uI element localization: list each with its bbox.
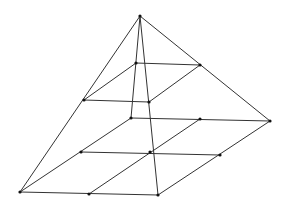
vertex-base-left-front-mid <box>87 192 90 195</box>
vertex-base-left <box>18 190 21 193</box>
edge-upper-front-to-upper-right <box>149 65 200 102</box>
edge-base-front-to-base-right <box>158 121 270 195</box>
pyramid-diagram <box>0 0 288 209</box>
edge-upper-back-to-upper-right <box>136 63 200 65</box>
edge-base-left-front-mid-to-base-back-right-mid <box>89 119 200 194</box>
edge-apex-to-base-left <box>20 16 140 192</box>
edge-upper-back-to-upper-left <box>84 63 136 100</box>
vertex-base-back <box>129 116 132 119</box>
diagram-edges <box>20 16 270 195</box>
vertex-upper-right <box>198 63 201 66</box>
vertex-base-left-back-mid <box>79 150 82 153</box>
edge-apex-to-base-back <box>131 16 140 118</box>
vertex-upper-back <box>134 61 137 64</box>
vertex-base-back-right-mid <box>198 117 201 120</box>
vertex-upper-front <box>147 100 150 103</box>
vertex-upper-left <box>82 98 85 101</box>
vertex-base-front <box>156 193 159 196</box>
edge-apex-to-base-right <box>140 16 270 121</box>
edge-apex-to-base-front <box>140 16 158 195</box>
edge-upper-left-to-upper-front <box>84 100 149 102</box>
diagram-vertices <box>18 14 271 196</box>
vertex-base-right <box>268 119 271 122</box>
vertex-apex <box>138 14 141 17</box>
vertex-base-center <box>148 150 151 153</box>
vertex-base-right-front-mid <box>218 153 221 156</box>
edge-base-left-to-base-back <box>20 118 131 192</box>
